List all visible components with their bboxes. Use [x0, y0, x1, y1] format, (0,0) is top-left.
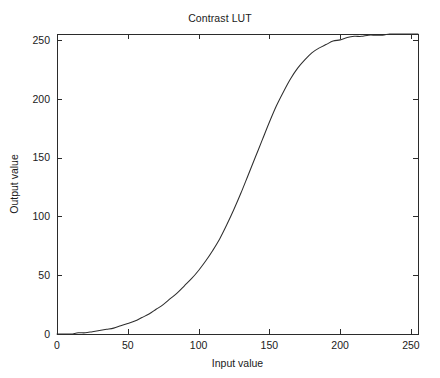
- y-tick-label: 50: [38, 269, 50, 281]
- y-axis-label: Output value: [8, 154, 20, 214]
- y-tick-label: 0: [44, 328, 50, 340]
- data-series-group: [57, 34, 418, 334]
- y-tick-label: 250: [32, 34, 50, 46]
- plot-frame: [57, 34, 418, 334]
- y-tick-label: 150: [32, 151, 50, 163]
- x-tick-label: 0: [54, 339, 60, 351]
- axes-group: [57, 34, 418, 334]
- x-tick-label: 200: [331, 339, 349, 351]
- data-series-line: [57, 34, 418, 334]
- x-tick-label: 100: [190, 339, 208, 351]
- chart-page: Contrast LUT 050100150200250050100150200…: [0, 0, 440, 378]
- y-tick-label: 100: [32, 210, 50, 222]
- x-tick-label: 150: [261, 339, 279, 351]
- y-tick-label: 200: [32, 93, 50, 105]
- tick-labels-group: 050100150200250050100150200250: [32, 34, 419, 351]
- x-tick-label: 250: [402, 339, 420, 351]
- chart-plot-area: 050100150200250050100150200250 Input val…: [0, 0, 440, 378]
- ticks-group: [57, 34, 418, 335]
- x-tick-label: 50: [122, 339, 134, 351]
- x-axis-label: Input value: [212, 357, 264, 369]
